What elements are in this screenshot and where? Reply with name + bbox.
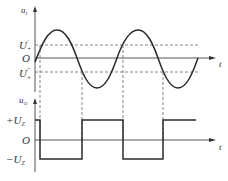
bottom-plot: uO t O +UZ −UZ <box>6 95 222 172</box>
bottom-x-axis-label: t <box>219 142 222 152</box>
low-level-label: −UZ <box>6 153 25 166</box>
top-plot: uI t O U' + U" + <box>19 5 222 92</box>
top-origin-label: O <box>22 52 30 64</box>
top-x-axis-arrow-icon <box>209 56 216 60</box>
top-y-axis-label: uI <box>21 5 28 16</box>
high-level-label: +UZ <box>6 114 25 127</box>
top-y-axis-arrow-icon <box>33 6 37 12</box>
lower-threshold-sub: + <box>27 75 31 81</box>
bottom-origin-label: O <box>22 134 30 146</box>
upper-threshold-sub: + <box>27 46 31 52</box>
switching-guides <box>40 45 163 140</box>
bottom-x-axis-arrow-icon <box>209 138 216 142</box>
top-x-axis-label: t <box>219 59 222 69</box>
waveform-diagram: uI t O U' + U" + uO t O +UZ −UZ <box>0 0 228 181</box>
input-sine-wave <box>35 30 198 88</box>
bottom-y-axis-label: uO <box>19 95 28 106</box>
bottom-y-axis-arrow-icon <box>33 98 37 104</box>
